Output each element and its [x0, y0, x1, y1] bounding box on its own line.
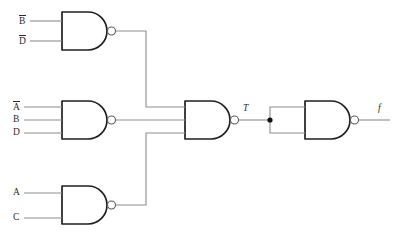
nand-4-body [185, 101, 230, 139]
nand-5-body [305, 101, 350, 139]
input-label-a-bar: A [13, 101, 20, 113]
nand-1-output-bubble [108, 27, 116, 35]
nand-2-body [62, 101, 107, 139]
junction-node-t [267, 117, 272, 122]
gate-nand-3[interactable] [62, 186, 116, 224]
nand-2-output-bubble [108, 116, 116, 124]
node-label-t: T [243, 104, 248, 114]
gate-nand-1[interactable] [62, 12, 116, 50]
nand-1-body [62, 12, 107, 50]
input-label-b-bar: B [19, 15, 26, 27]
input-label-a: A [13, 188, 20, 198]
node-label-f: f [378, 104, 381, 114]
input-label-d-bar: D [19, 35, 26, 47]
wire-node-t-upper-branch [270, 107, 305, 120]
circuit-canvas [0, 0, 398, 241]
circuit-diagram: B D A B D A C T f [0, 0, 398, 241]
wire-node-t-lower-branch [270, 120, 305, 133]
input-label-d: D [13, 128, 20, 138]
input-label-b: B [13, 115, 20, 125]
nand-5-output-bubble [351, 116, 359, 124]
gate-nand-5[interactable] [305, 101, 359, 139]
input-label-c: C [13, 213, 20, 223]
gate-nand-2[interactable] [62, 101, 116, 139]
nand-4-output-bubble [231, 116, 239, 124]
wire-nand3-to-nand4 [116, 133, 186, 205]
gate-nand-4[interactable] [185, 101, 239, 139]
nand-3-output-bubble [108, 201, 116, 209]
nand-3-body [62, 186, 107, 224]
wire-nand1-to-nand4 [116, 31, 186, 107]
